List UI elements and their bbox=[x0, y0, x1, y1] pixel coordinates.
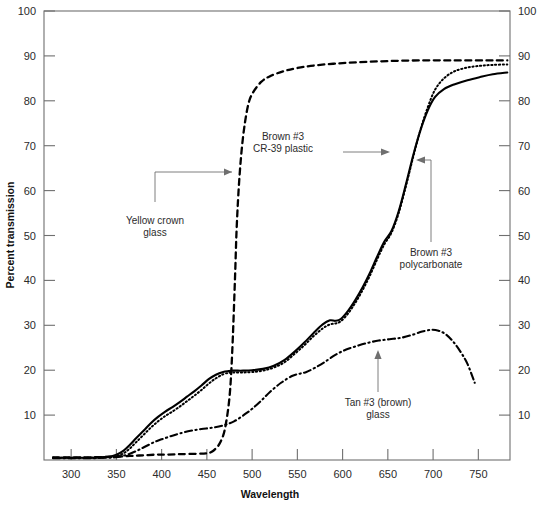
y-tick-label-left-10: 10 bbox=[24, 409, 36, 421]
y-tick-label-right-90: 90 bbox=[518, 50, 530, 62]
y-tick-label-right-20: 20 bbox=[518, 364, 530, 376]
x-tick-label-600: 600 bbox=[333, 468, 351, 480]
yellow-crown-glass-label-line2: glass bbox=[143, 227, 166, 238]
y-tick-label-left-70: 70 bbox=[24, 140, 36, 152]
y-tick-label-left-50: 50 bbox=[24, 230, 36, 242]
x-tick-label-550: 550 bbox=[288, 468, 306, 480]
y-tick-label-right-70: 70 bbox=[518, 140, 530, 152]
chart-canvas: 102030405060708090100 102030405060708090… bbox=[0, 0, 541, 508]
brown3-polycarbonate-label-line2: polycarbonate bbox=[400, 259, 463, 270]
y-tick-label-right-100: 100 bbox=[518, 5, 536, 17]
y-tick-label-left-100: 100 bbox=[18, 5, 36, 17]
x-tick-label-450: 450 bbox=[198, 468, 216, 480]
y-tick-label-left-90: 90 bbox=[24, 50, 36, 62]
y-tick-label-right-40: 40 bbox=[518, 274, 530, 286]
y-axis-title: Percent transmission bbox=[4, 182, 16, 289]
x-tick-label-500: 500 bbox=[243, 468, 261, 480]
brown3-polycarbonate-label-line1: Brown #3 bbox=[410, 247, 453, 258]
brown3-cr39-label-line1: Brown #3 bbox=[262, 131, 305, 142]
y-tick-label-left-20: 20 bbox=[24, 364, 36, 376]
x-tick-label-700: 700 bbox=[424, 468, 442, 480]
y-tick-label-left-30: 30 bbox=[24, 319, 36, 331]
yellow-crown-glass-label-line1: Yellow crown bbox=[126, 215, 184, 226]
y-tick-label-right-50: 50 bbox=[518, 230, 530, 242]
brown3-cr39-label-line2: CR-39 plastic bbox=[253, 143, 313, 154]
transmission-chart: 102030405060708090100 102030405060708090… bbox=[0, 0, 541, 508]
y-tick-label-left-40: 40 bbox=[24, 274, 36, 286]
x-tick-label-750: 750 bbox=[469, 468, 487, 480]
y-tick-label-left-80: 80 bbox=[24, 95, 36, 107]
y-tick-label-left-60: 60 bbox=[24, 185, 36, 197]
tan3-brown-glass-label-line2: glass bbox=[366, 409, 389, 420]
x-tick-label-400: 400 bbox=[152, 468, 170, 480]
x-tick-label-350: 350 bbox=[107, 468, 125, 480]
x-axis-title: Wavelength bbox=[241, 488, 300, 500]
x-tick-label-650: 650 bbox=[379, 468, 397, 480]
x-tick-label-300: 300 bbox=[62, 468, 80, 480]
y-tick-label-right-10: 10 bbox=[518, 409, 530, 421]
y-tick-label-right-60: 60 bbox=[518, 185, 530, 197]
y-tick-label-right-30: 30 bbox=[518, 319, 530, 331]
y-tick-label-right-80: 80 bbox=[518, 95, 530, 107]
tan3-brown-glass-label-line1: Tan #3 (brown) bbox=[345, 397, 412, 408]
